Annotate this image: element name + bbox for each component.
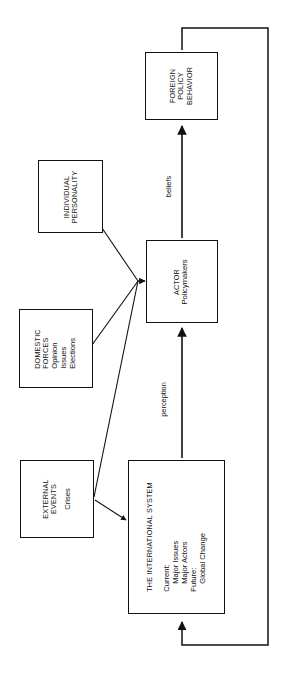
is-line-5: Future: (189, 482, 198, 591)
df-line-5: Elections (69, 329, 78, 369)
actor-line-2: Policymakers (182, 259, 191, 304)
ee-line-3: Crises (64, 479, 73, 519)
edge-label-beliefs: beliefs (164, 176, 173, 197)
box-external-events-label: EXTERNAL EVENTS Crises (42, 479, 73, 519)
is-line-6: Global Change (198, 482, 207, 591)
is-line-4: Major Actors (180, 482, 189, 591)
box-actor: ACTOR Policymakers (146, 240, 218, 323)
box-domestic-forces: DOMESTIC FORCES Opinion Issues Elections (19, 309, 93, 388)
is-line-3: Major Issues (171, 482, 180, 591)
fpb-line-3: BEHAVIOR (186, 67, 194, 105)
diagram-canvas: FOREIGN POLICY BEHAVIOR INDIVIDUAL PERSO… (0, 0, 282, 674)
box-foreign-policy-behavior: FOREIGN POLICY BEHAVIOR (145, 52, 218, 120)
box-foreign-policy-behavior-label: FOREIGN POLICY BEHAVIOR (169, 67, 194, 105)
is-line-2: Current: (162, 482, 171, 591)
box-actor-label: ACTOR Policymakers (173, 259, 190, 304)
box-international-system: THE INTERNATIONAL SYSTEM Current: Major … (128, 460, 225, 614)
ip-line-2: PERSONALITY (71, 170, 79, 223)
box-domestic-forces-label: DOMESTIC FORCES Opinion Issues Elections (34, 329, 78, 369)
box-individual-personality: INDIVIDUAL PERSONALITY (38, 160, 103, 233)
box-individual-personality-label: INDIVIDUAL PERSONALITY (62, 170, 79, 223)
box-external-events: EXTERNAL EVENTS Crises (20, 460, 94, 538)
arrow-external-events-to-international-system (95, 500, 126, 520)
box-international-system-label: THE INTERNATIONAL SYSTEM Current: Major … (146, 482, 207, 591)
is-line-1: THE INTERNATIONAL SYSTEM (146, 482, 155, 591)
ee-line-2: EVENTS (50, 479, 58, 519)
converging-input-lines (92, 228, 138, 497)
edge-label-perception: perception (159, 382, 168, 417)
